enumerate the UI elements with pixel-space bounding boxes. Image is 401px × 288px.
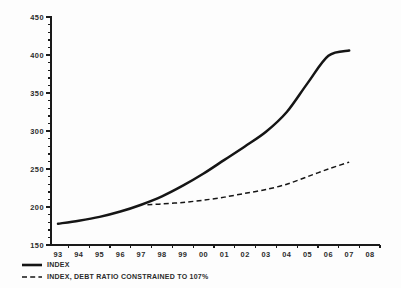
- x-axis-tick-label: 08: [365, 250, 374, 259]
- y-axis-tick-label: 250: [30, 165, 44, 174]
- y-axis-tick-label: 350: [30, 89, 44, 98]
- x-axis-tick-label: 05: [303, 250, 312, 259]
- x-axis-tick-label: 95: [95, 250, 104, 259]
- x-axis-tick-label: 06: [324, 250, 333, 259]
- legend-item-label: INDEX: [47, 261, 70, 268]
- y-axis-tick-label: 300: [30, 127, 44, 136]
- x-axis-tick-label: 98: [157, 250, 166, 259]
- x-axis-tick-label: 96: [116, 250, 125, 259]
- x-axis-tick-label: 99: [178, 250, 187, 259]
- x-axis-tick-label: 03: [261, 250, 270, 259]
- x-axis-tick-label: 02: [241, 250, 250, 259]
- x-axis-tick-label: 94: [74, 250, 84, 259]
- x-axis-tick-label: 01: [220, 250, 229, 259]
- chart-canvas: 150200250300350400450 939495969798990001…: [0, 0, 401, 288]
- y-axis-tick-label: 450: [30, 13, 44, 22]
- x-axis-tick-label: 07: [345, 250, 354, 259]
- y-axis-tick-label: 150: [30, 241, 44, 250]
- legend-item-label: INDEX, DEBT RATIO CONSTRAINED TO 107%: [47, 273, 209, 281]
- x-axis-tick-label: 93: [53, 250, 62, 259]
- x-axis-tick-label: 04: [282, 250, 292, 259]
- y-axis-tick-label: 400: [30, 51, 44, 60]
- x-axis-tick-label: 97: [137, 250, 146, 259]
- x-axis-tick-label: 00: [199, 250, 208, 259]
- y-axis-tick-label: 200: [30, 203, 44, 212]
- line-chart: 150200250300350400450 939495969798990001…: [0, 0, 401, 288]
